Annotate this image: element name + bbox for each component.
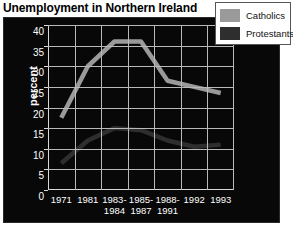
y-tick-label: 25	[33, 89, 44, 99]
legend-item: Catholics	[220, 7, 290, 24]
y-axis-tick	[44, 46, 48, 47]
x-tick-label: 1988- 1991	[155, 194, 179, 216]
y-axis-tick	[44, 87, 48, 88]
gridline-vertical	[233, 25, 234, 190]
gridline-horizontal	[48, 87, 234, 88]
x-tick-label: 1993	[210, 194, 231, 205]
gridline-horizontal	[48, 128, 234, 129]
y-tick-label: 20	[33, 110, 44, 120]
y-axis-tick	[44, 66, 48, 67]
y-axis-tick-labels: 0510152025303540	[22, 25, 44, 190]
x-tick-label: 1981	[77, 194, 98, 205]
y-tick-label: 15	[33, 130, 44, 140]
series-line-catholics	[61, 42, 220, 118]
y-axis-tick	[44, 169, 48, 170]
gridline-vertical	[207, 25, 208, 190]
gridline-horizontal	[48, 46, 234, 47]
gridline-horizontal	[48, 66, 234, 67]
x-tick-label: 1985- 1987	[129, 194, 153, 216]
gridline-vertical	[101, 25, 102, 190]
x-axis-tick-labels: 197119811983- 19841985- 19871988- 199119…	[48, 194, 234, 222]
y-tick-label: 35	[33, 48, 44, 58]
y-tick-label: 5	[38, 171, 44, 181]
y-axis-tick	[44, 149, 48, 150]
y-axis-tick	[44, 25, 48, 26]
gridline-horizontal	[48, 108, 234, 109]
chart-panel: percent 0510152025303540 197119811983- 1…	[3, 17, 280, 223]
page-title: Unemployment in Northern Ireland	[3, 1, 197, 15]
legend-item: Protestants	[220, 25, 290, 42]
gridline-vertical	[154, 25, 155, 190]
y-tick-label: 0	[38, 192, 44, 202]
gridline-vertical	[75, 25, 76, 190]
y-tick-label: 30	[33, 68, 44, 78]
x-tick-label: 1992	[184, 194, 205, 205]
chart-legend: CatholicsProtestants	[215, 2, 291, 45]
plot-area	[48, 25, 234, 190]
legend-swatch-icon	[220, 9, 240, 22]
gridline-horizontal	[48, 169, 234, 170]
gridline-vertical	[128, 25, 129, 190]
gridline-vertical	[181, 25, 182, 190]
series-line-protestants	[61, 128, 220, 163]
y-tick-label: 40	[33, 27, 44, 37]
gridline-horizontal	[48, 149, 234, 150]
y-axis-tick	[44, 128, 48, 129]
y-tick-label: 10	[33, 151, 44, 161]
y-axis-tick	[44, 108, 48, 109]
gridline-horizontal	[48, 25, 234, 26]
legend-swatch-icon	[220, 27, 240, 40]
x-tick-label: 1971	[51, 194, 72, 205]
x-tick-label: 1983- 1984	[102, 194, 126, 216]
legend-label: Catholics	[246, 10, 285, 21]
y-axis-tick	[44, 190, 48, 191]
legend-label: Protestants	[246, 28, 293, 39]
